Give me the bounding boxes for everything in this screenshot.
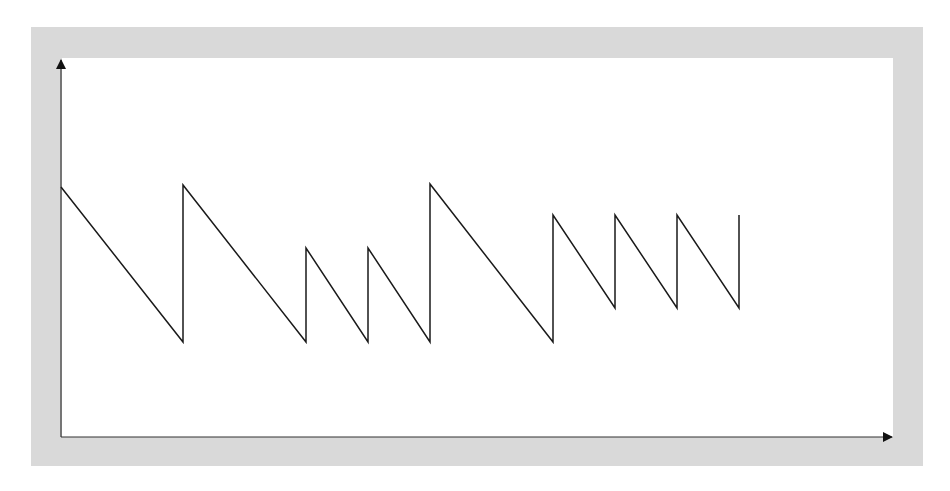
sawtooth-diagram [0,0,950,491]
sawtooth-waveform-line [61,184,739,342]
